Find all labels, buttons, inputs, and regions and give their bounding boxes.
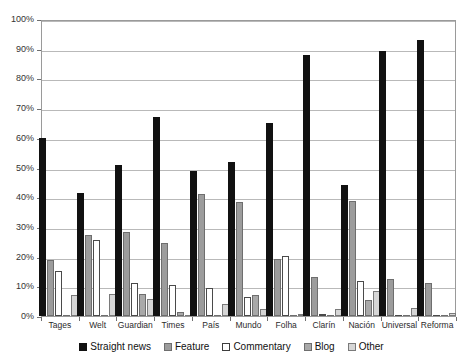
y-axis-tick-label: 70%: [0, 103, 34, 113]
y-axis-tick-label: 20%: [0, 252, 34, 262]
bar-straight-news: [39, 138, 46, 316]
bar-commentary: [244, 297, 251, 316]
bar-feature: [123, 232, 130, 316]
bar-blog: [365, 300, 372, 316]
x-axis-label-folha: Folha: [267, 320, 305, 330]
x-axis-label-clarn: Clarín: [305, 320, 343, 330]
bar-group: [303, 21, 342, 316]
y-axis-tick-label: 30%: [0, 222, 34, 232]
legend-item-commentary[interactable]: Commentary: [222, 342, 290, 352]
bar-other: [449, 313, 456, 316]
bar-straight-news: [190, 171, 197, 316]
bar-blog: [214, 315, 221, 316]
bar-commentary: [433, 315, 440, 316]
legend-swatch-blog-icon: [304, 343, 312, 351]
legend-label: Straight news: [90, 342, 151, 352]
bar-commentary: [55, 271, 62, 316]
bar-straight-news: [303, 55, 310, 316]
bar-feature: [236, 202, 243, 316]
y-axis-tick-label: 50%: [0, 163, 34, 173]
bar-feature: [349, 201, 356, 316]
bar-straight-news: [228, 162, 235, 316]
bar-commentary: [357, 281, 364, 316]
x-axis-label-guardian: Guardian: [116, 320, 154, 330]
x-axis-label-tages: Tages: [41, 320, 79, 330]
bar-feature: [47, 260, 54, 316]
bar-straight-news: [115, 165, 122, 316]
bar-feature: [85, 235, 92, 316]
y-axis-tick-label: 100%: [0, 14, 34, 24]
x-axis-label-universal: Universal: [381, 320, 419, 330]
bar-feature: [311, 277, 318, 317]
bar-group: [417, 21, 456, 316]
x-axis-label-reforma: Reforma: [418, 320, 456, 330]
bar-blog: [290, 315, 297, 316]
legend-item-blog[interactable]: Blog: [304, 342, 335, 352]
bar-blog: [139, 294, 146, 316]
grouped-bar-chart: 0%10%20%30%40%50%60%70%80%90%100% TagesW…: [0, 0, 463, 364]
bar-straight-news: [266, 123, 273, 316]
legend-label: Blog: [315, 342, 335, 352]
bar-group: [153, 21, 192, 316]
x-axis-label-pas: País: [192, 320, 230, 330]
bar-commentary: [395, 315, 402, 316]
x-axis-label-times: Times: [154, 320, 192, 330]
bar-commentary: [93, 240, 100, 316]
legend-swatch-other-icon: [348, 343, 356, 351]
x-axis-label-welt: Welt: [79, 320, 117, 330]
y-axis-tick-label: 10%: [0, 281, 34, 291]
bar-feature: [425, 283, 432, 316]
bar-straight-news: [77, 193, 84, 316]
bar-blog: [327, 315, 334, 316]
x-axis-label-mundo: Mundo: [230, 320, 268, 330]
bar-blog: [101, 315, 108, 316]
bar-blog: [63, 315, 70, 316]
bar-group: [228, 21, 267, 316]
bar-group: [77, 21, 116, 316]
bar-group: [190, 21, 229, 316]
chart-legend: Straight newsFeatureCommentaryBlogOther: [0, 342, 463, 352]
bar-blog: [403, 315, 410, 316]
bar-group: [379, 21, 418, 316]
legend-item-feature[interactable]: Feature: [164, 342, 209, 352]
legend-label: Commentary: [233, 342, 290, 352]
bar-straight-news: [417, 40, 424, 316]
y-axis-tick-label: 40%: [0, 192, 34, 202]
bar-commentary: [206, 288, 213, 316]
x-axis-label-nacin: Nación: [343, 320, 381, 330]
y-axis-tick-label: 0%: [0, 311, 34, 321]
bar-blog: [252, 295, 259, 316]
legend-swatch-straight-news-icon: [79, 343, 87, 351]
bar-group: [39, 21, 78, 316]
bar-blog: [441, 315, 448, 316]
bar-blog: [177, 312, 184, 316]
legend-label: Other: [359, 342, 384, 352]
legend-label: Feature: [175, 342, 209, 352]
legend-swatch-feature-icon: [164, 343, 172, 351]
bar-group: [341, 21, 380, 316]
x-axis-tick-mark: [456, 317, 457, 321]
legend-swatch-commentary-icon: [222, 343, 230, 351]
bar-straight-news: [153, 117, 160, 316]
bar-feature: [387, 279, 394, 316]
bar-feature: [274, 259, 281, 316]
y-axis-tick-label: 80%: [0, 73, 34, 83]
plot-area: [41, 20, 456, 317]
legend-item-straight-news[interactable]: Straight news: [79, 342, 151, 352]
bar-group: [266, 21, 305, 316]
bar-commentary: [169, 285, 176, 316]
bar-commentary: [319, 314, 326, 316]
bar-commentary: [282, 256, 289, 316]
bar-feature: [161, 243, 168, 316]
bar-straight-news: [341, 185, 348, 316]
bar-feature: [198, 194, 205, 316]
bar-commentary: [131, 283, 138, 316]
bar-group: [115, 21, 154, 316]
y-axis-tick-label: 90%: [0, 44, 34, 54]
legend-item-other[interactable]: Other: [348, 342, 384, 352]
bar-straight-news: [379, 51, 386, 316]
y-axis-tick-label: 60%: [0, 133, 34, 143]
